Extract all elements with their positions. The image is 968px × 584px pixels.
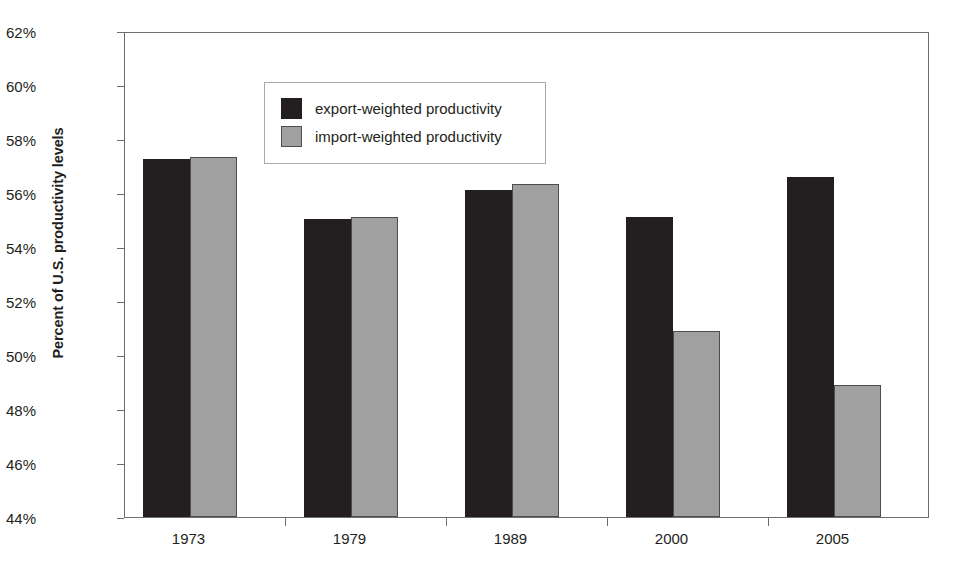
legend-label-export: export-weighted productivity	[315, 100, 502, 117]
y-axis-tick-label: 60%	[0, 78, 36, 95]
bar-1973-import	[190, 157, 237, 517]
legend-item-export: export-weighted productivity	[281, 94, 545, 122]
y-axis-tick-mark	[117, 248, 124, 249]
x-axis-tick-mark	[446, 518, 447, 526]
bar-1979-import	[351, 217, 398, 517]
y-axis-tick-label: 62%	[0, 24, 36, 41]
x-axis-tick-label-2000: 2000	[612, 530, 732, 547]
y-axis-tick-label: 46%	[0, 456, 36, 473]
bar-1979-export	[304, 219, 351, 517]
y-axis-tick-label: 44%	[0, 510, 36, 527]
y-axis-tick-label: 50%	[0, 348, 36, 365]
y-axis-tick-mark	[117, 302, 124, 303]
black-square-swatch-icon	[281, 98, 302, 119]
y-axis-tick-mark	[117, 86, 124, 87]
x-axis-tick-label-2005: 2005	[773, 530, 893, 547]
gray-square-swatch-icon	[281, 126, 302, 147]
y-axis-tick-mark	[117, 356, 124, 357]
chart-legend: export-weighted productivity import-weig…	[264, 82, 546, 164]
plot-area: export-weighted productivity import-weig…	[124, 32, 929, 518]
legend-item-import: import-weighted productivity	[281, 122, 545, 150]
bar-2000-import	[673, 331, 720, 517]
x-axis-tick-mark	[768, 518, 769, 526]
y-axis-tick-mark	[117, 32, 124, 33]
x-axis-tick-mark	[607, 518, 608, 526]
bar-2005-import	[834, 385, 881, 517]
y-axis-tick-label: 52%	[0, 294, 36, 311]
x-axis-tick-label-1989: 1989	[451, 530, 571, 547]
y-axis-title: Percent of U.S. productivity levels	[50, 63, 72, 423]
y-axis-tick-mark	[117, 140, 124, 141]
y-axis-tick-mark	[117, 410, 124, 411]
x-axis-tick-mark	[285, 518, 286, 526]
y-axis-tick-label: 56%	[0, 186, 36, 203]
x-axis-tick-label-1979: 1979	[290, 530, 410, 547]
bar-1989-import	[512, 184, 559, 517]
bar-2000-export	[626, 217, 673, 517]
y-axis-tick-label: 54%	[0, 240, 36, 257]
y-axis-tick-mark	[117, 464, 124, 465]
y-axis-tick-label: 48%	[0, 402, 36, 419]
y-axis-tick-mark	[117, 194, 124, 195]
legend-label-import: import-weighted productivity	[315, 128, 502, 145]
bar-chart: Percent of U.S. productivity levels 44%4…	[0, 0, 968, 584]
bar-1989-export	[465, 190, 512, 517]
x-axis-tick-label-1973: 1973	[129, 530, 249, 547]
bar-1973-export	[143, 159, 190, 517]
bar-2005-export	[787, 177, 834, 517]
y-axis-tick-mark	[117, 518, 124, 519]
y-axis-tick-label: 58%	[0, 132, 36, 149]
